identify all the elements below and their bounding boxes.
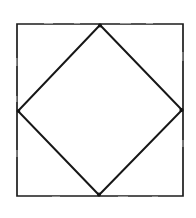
scan-speckle xyxy=(16,150,17,157)
scan-speckle xyxy=(182,52,183,61)
scan-speckle xyxy=(44,23,53,24)
left-vertex-blot xyxy=(17,109,21,113)
scan-speckle xyxy=(16,96,17,102)
bottom-vertex-blot xyxy=(97,193,101,197)
scan-speckle xyxy=(52,196,60,197)
right-vertex-blot xyxy=(179,108,183,112)
figure-svg xyxy=(0,0,196,218)
scan-speckle xyxy=(120,23,131,24)
canvas-background xyxy=(0,0,196,218)
scan-speckle xyxy=(118,196,128,197)
top-vertex-blot xyxy=(98,24,102,28)
scan-speckle xyxy=(182,140,183,147)
geometric-figure-canvas xyxy=(0,0,196,218)
scan-speckle xyxy=(74,23,80,24)
scan-speckle xyxy=(146,23,153,24)
scan-speckle xyxy=(16,58,17,66)
scan-speckle xyxy=(152,196,158,197)
